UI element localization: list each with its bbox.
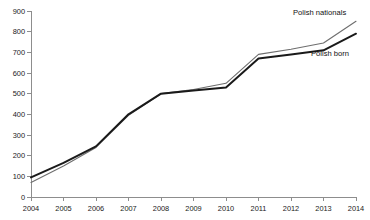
series-line-polish-born xyxy=(31,34,356,178)
y-tick-label: 800 xyxy=(13,27,25,36)
line-chart: 0100200300400500600700800900 20042005200… xyxy=(0,0,370,220)
y-axis-tick-labels: 0100200300400500600700800900 xyxy=(13,7,25,202)
x-tick-label: 2004 xyxy=(23,204,39,213)
series-lines xyxy=(31,21,356,182)
y-tick-label: 500 xyxy=(13,89,25,98)
x-axis-ticks xyxy=(31,197,356,201)
x-tick-label: 2005 xyxy=(55,204,71,213)
y-tick-label: 0 xyxy=(21,193,25,202)
x-tick-label: 2012 xyxy=(283,204,299,213)
x-tick-label: 2013 xyxy=(315,204,331,213)
y-tick-label: 400 xyxy=(13,110,25,119)
x-tick-label: 2006 xyxy=(88,204,104,213)
series-line-polish-nationals xyxy=(31,21,356,182)
y-axis-group: 0100200300400500600700800900 xyxy=(13,7,31,202)
x-axis-tick-labels: 2004200520062007200820092010201120122013… xyxy=(23,204,364,213)
y-tick-label: 100 xyxy=(13,172,25,181)
y-tick-label: 200 xyxy=(13,151,25,160)
y-tick-label: 600 xyxy=(13,69,25,78)
y-axis-ticks xyxy=(27,11,31,197)
y-tick-label: 300 xyxy=(13,131,25,140)
x-tick-label: 2014 xyxy=(348,204,364,213)
x-tick-label: 2011 xyxy=(251,204,267,213)
chart-canvas: 0100200300400500600700800900 20042005200… xyxy=(0,0,370,220)
series-label-polish-born: Polish born xyxy=(311,49,349,58)
y-tick-label: 700 xyxy=(13,48,25,57)
x-tick-label: 2007 xyxy=(120,204,136,213)
series-label-polish-nationals: Polish nationals xyxy=(293,8,346,17)
x-tick-label: 2008 xyxy=(153,204,169,213)
x-tick-label: 2009 xyxy=(185,204,201,213)
y-tick-label: 900 xyxy=(13,7,25,16)
x-tick-label: 2010 xyxy=(218,204,234,213)
series-inline-labels: Polish nationalsPolish born xyxy=(293,8,349,57)
x-axis-group: 2004200520062007200820092010201120122013… xyxy=(23,197,364,213)
